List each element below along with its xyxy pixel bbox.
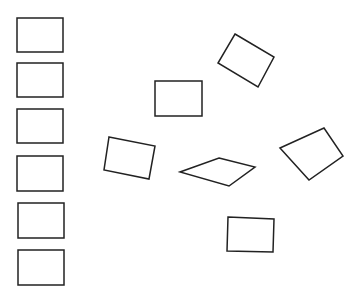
shapes-canvas (0, 0, 358, 299)
background (0, 0, 358, 299)
